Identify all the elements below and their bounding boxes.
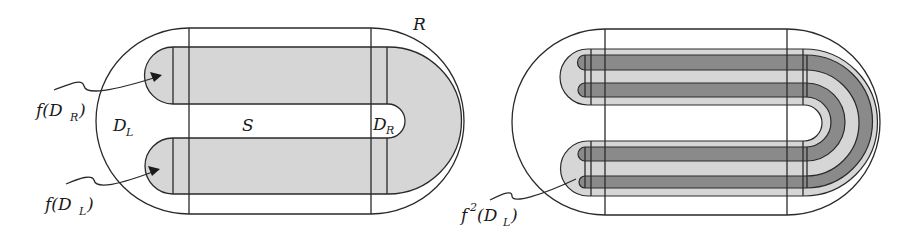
svg-text:D: D <box>372 114 387 134</box>
f2-strip-upper-inner <box>578 83 845 161</box>
label-R: R <box>412 14 426 34</box>
svg-text:L: L <box>78 205 86 218</box>
svg-text:D: D <box>112 115 127 135</box>
svg-text:R: R <box>385 124 394 137</box>
svg-text:L: L <box>502 216 510 229</box>
label-S: S <box>242 115 254 135</box>
svg-text:): ) <box>78 100 86 120</box>
label-D-L: D L <box>112 115 133 139</box>
svg-text:): ) <box>510 205 518 225</box>
svg-text:): ) <box>86 194 94 214</box>
right-panel: f 2 (D L ) <box>459 29 880 229</box>
label-f2-D-L: f 2 (D L ) <box>459 201 518 229</box>
svg-text:R: R <box>69 111 78 124</box>
svg-text:f(D: f(D <box>43 194 72 214</box>
horseshoe-image-fS <box>145 47 462 194</box>
horseshoe-diagram: R S D L D R f(D R ) f(D L ) <box>0 0 915 241</box>
svg-text:(D: (D <box>477 205 498 225</box>
left-panel: R S D L D R f(D R ) f(D L ) <box>34 14 464 218</box>
label-f-D-L: f(D L ) <box>43 194 94 218</box>
svg-text:f(D: f(D <box>34 100 63 120</box>
svg-text:f: f <box>459 205 470 225</box>
label-f-D-R: f(D R ) <box>34 100 86 124</box>
svg-text:2: 2 <box>469 201 477 214</box>
pointer-f2-DL <box>490 179 576 200</box>
svg-text:L: L <box>125 126 133 139</box>
label-D-R: D R <box>372 114 394 137</box>
